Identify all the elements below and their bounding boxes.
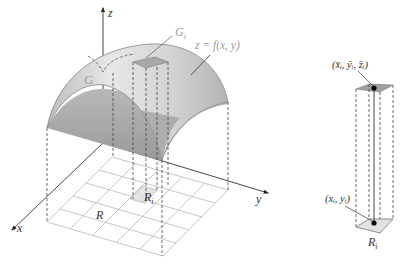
- x-axis: [12, 143, 103, 230]
- patch-gi-label-main: G: [175, 25, 184, 39]
- base-ri-label-sub: i: [375, 242, 377, 251]
- patch-gi-label-sub: i: [184, 32, 186, 41]
- base-ri-label: Ri: [368, 236, 378, 251]
- patch-gi-label: Gi: [175, 26, 186, 41]
- surface-g-label: G: [84, 73, 93, 86]
- subregion-ri-label: Ri: [144, 191, 154, 206]
- region-r-label: R: [96, 209, 103, 221]
- region-grid: [47, 157, 228, 256]
- z-axis-label: z: [108, 7, 113, 19]
- column-detail: [345, 71, 393, 233]
- x-axis-label: x: [17, 222, 22, 234]
- bottom-point: [371, 220, 376, 225]
- bottom-point-label: (xᵢ, yᵢ): [325, 194, 350, 205]
- top-point: [371, 85, 376, 90]
- function-label: z = f(x, y): [195, 40, 240, 52]
- top-point-label: (x̄ᵢ, ȳᵢ, z̄ᵢ): [332, 60, 368, 71]
- y-axis-label: y: [256, 193, 261, 205]
- subregion-ri-label-sub: i: [151, 197, 153, 206]
